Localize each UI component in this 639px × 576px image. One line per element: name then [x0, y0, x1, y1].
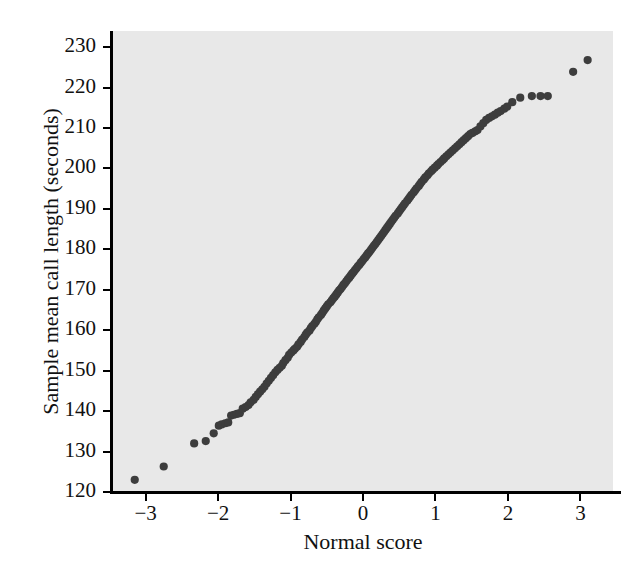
scatter-points-layer: [113, 31, 613, 492]
x-tick-label: −1: [261, 503, 321, 524]
x-tick-mark: [507, 493, 509, 501]
y-axis-line: [110, 31, 113, 493]
y-tick-mark: [103, 329, 110, 331]
x-axis-title: Normal score: [113, 531, 613, 553]
x-tick-mark: [217, 493, 219, 501]
x-tick-label: 1: [405, 503, 465, 524]
x-tick-label: 3: [550, 503, 610, 524]
data-points-group: [131, 56, 592, 484]
x-tick-label: 2: [478, 503, 538, 524]
y-tick-mark: [103, 289, 110, 291]
y-axis-title: Sample mean call length (seconds): [34, 31, 68, 492]
plot-area: [113, 31, 613, 492]
x-tick-mark: [145, 493, 147, 501]
y-tick-mark: [103, 167, 110, 169]
y-tick-mark: [103, 451, 110, 453]
x-tick-label: −2: [188, 503, 248, 524]
x-tick-mark: [362, 493, 364, 501]
qq-plot-figure: 120130140150160170180190200210220230 −3−…: [0, 0, 639, 576]
x-axis-line: [110, 491, 621, 494]
x-tick-mark: [434, 493, 436, 501]
x-tick-label: −3: [116, 503, 176, 524]
y-tick-mark: [103, 87, 110, 89]
x-tick-mark: [579, 493, 581, 501]
x-tick-label: 0: [333, 503, 393, 524]
y-tick-mark: [103, 46, 110, 48]
y-tick-mark: [103, 208, 110, 210]
y-tick-mark: [103, 370, 110, 372]
y-tick-mark: [103, 491, 110, 493]
y-tick-mark: [103, 248, 110, 250]
y-tick-mark: [103, 410, 110, 412]
x-tick-mark: [290, 493, 292, 501]
y-tick-mark: [103, 127, 110, 129]
